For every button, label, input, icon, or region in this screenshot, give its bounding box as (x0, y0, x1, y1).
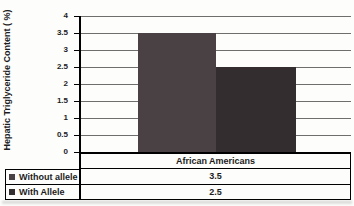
y-tick-label: 3.5 (34, 28, 68, 38)
chart-area: Hepatic Triglyceride Content ( %) 4 3.5 … (0, 0, 354, 206)
legend: Without allele With Allele (5, 169, 81, 200)
legend-label: With Allele (19, 187, 65, 197)
value-cell-with-allele: 2.5 (81, 185, 351, 200)
page-edge-shadow (2, 201, 352, 205)
y-tick-label: 4 (34, 11, 68, 21)
y-axis-tick-labels: 4 3.5 3 2.5 2 1.5 1 0.5 0 (34, 0, 68, 160)
plot-area (79, 16, 351, 154)
value-cell-without-allele: 3.5 (81, 169, 351, 185)
legend-item-without-allele: Without allele (6, 170, 81, 185)
y-tick-label: 2.5 (34, 62, 68, 72)
legend-swatch-icon (9, 174, 15, 180)
y-tick-label: 2 (34, 79, 68, 89)
bar-without-allele (138, 33, 216, 152)
y-axis-title: Hepatic Triglyceride Content ( %) (1, 0, 13, 160)
bar-with-allele (216, 67, 296, 152)
legend-label: Without allele (19, 172, 77, 182)
y-tick-label: 3 (34, 45, 68, 55)
legend-item-with-allele: With Allele (6, 185, 81, 199)
y-tick-label: 1.5 (34, 96, 68, 106)
y-tick-label: 0 (34, 147, 68, 157)
y-tick-label: 0.5 (34, 130, 68, 140)
category-header-cell: African Americans (81, 154, 351, 169)
legend-swatch-icon (9, 189, 15, 195)
y-tick-label: 1 (34, 113, 68, 123)
